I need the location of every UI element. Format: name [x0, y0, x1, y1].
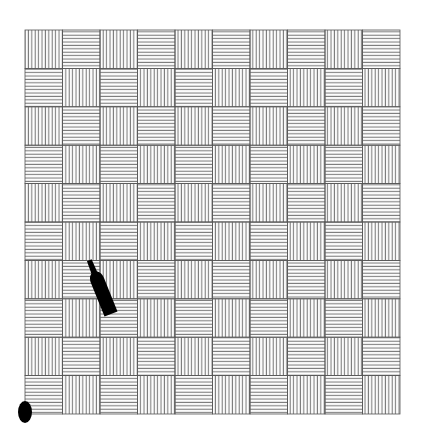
floor-tile — [325, 30, 363, 68]
floor-tile — [63, 68, 101, 106]
floor-tile — [25, 260, 63, 298]
floor-tile — [325, 184, 363, 222]
floor-tile — [138, 260, 176, 298]
floor-tile — [100, 337, 138, 375]
floor-tile — [288, 260, 326, 298]
floor-tile — [363, 376, 401, 414]
floor-tile — [25, 337, 63, 375]
floor-tile — [250, 376, 288, 414]
floor-tile — [363, 299, 401, 337]
floor-tile — [138, 337, 176, 375]
floor-tile — [325, 260, 363, 298]
floor-tile — [175, 145, 213, 183]
floor-tile — [325, 376, 363, 414]
floor-tile — [325, 107, 363, 145]
floor-tile — [138, 376, 176, 414]
floor-tile — [175, 376, 213, 414]
floor-tile — [175, 184, 213, 222]
floor-tile — [25, 30, 63, 68]
floor-tile — [363, 107, 401, 145]
floor-tile — [138, 222, 176, 260]
floor-tile — [138, 30, 176, 68]
floor-tile — [250, 184, 288, 222]
floor-tile — [363, 337, 401, 375]
floor-tile — [25, 299, 63, 337]
floor-tile — [363, 145, 401, 183]
floor-tile — [175, 222, 213, 260]
floor-tile — [175, 299, 213, 337]
floor-tile — [213, 30, 251, 68]
floor-tile — [138, 299, 176, 337]
floor-tile — [363, 222, 401, 260]
floor-tile — [288, 30, 326, 68]
floor-tile — [63, 337, 101, 375]
floor-tile — [100, 30, 138, 68]
floor-tile — [213, 145, 251, 183]
floor-tile — [25, 107, 63, 145]
floor-tile — [325, 222, 363, 260]
floor-tile — [25, 222, 63, 260]
floor-tile — [250, 145, 288, 183]
floor-tile — [138, 145, 176, 183]
floor-tile — [138, 184, 176, 222]
floor-tile — [213, 107, 251, 145]
floor-tile — [213, 184, 251, 222]
floor-tile — [138, 68, 176, 106]
floor-tile — [250, 299, 288, 337]
floor-tile — [100, 184, 138, 222]
floor-tile — [250, 337, 288, 375]
floor-tile — [25, 68, 63, 106]
floor-tile — [175, 107, 213, 145]
checkerboard-floor — [25, 30, 400, 414]
floor-tile — [288, 376, 326, 414]
floor-tile — [288, 299, 326, 337]
floor-tile — [100, 145, 138, 183]
floor-tile — [25, 184, 63, 222]
floor-tile — [100, 68, 138, 106]
floor-tile — [63, 145, 101, 183]
floor-tile — [63, 376, 101, 414]
floor-tile — [363, 68, 401, 106]
floor-tile — [213, 337, 251, 375]
floor-tile — [100, 107, 138, 145]
floor-tile — [100, 376, 138, 414]
floor-tile — [325, 299, 363, 337]
floor-tile — [325, 337, 363, 375]
floor-tile — [63, 107, 101, 145]
scene-canvas — [0, 0, 421, 445]
floor-tile — [175, 337, 213, 375]
floor-tile — [213, 376, 251, 414]
floor-tile — [175, 30, 213, 68]
floor-tile — [213, 68, 251, 106]
floor-tile — [288, 222, 326, 260]
black-oval — [18, 401, 32, 423]
floor-tile — [325, 68, 363, 106]
floor-tile — [325, 145, 363, 183]
floor-tile — [363, 184, 401, 222]
floor-tile — [250, 30, 288, 68]
floor-tile — [63, 299, 101, 337]
floor-tile — [175, 260, 213, 298]
floor-tile — [250, 260, 288, 298]
floor-tile — [363, 260, 401, 298]
floor-tile — [63, 30, 101, 68]
floor-tile — [288, 184, 326, 222]
floor-tile — [213, 260, 251, 298]
floor-tile — [25, 145, 63, 183]
floor-tile — [63, 184, 101, 222]
floor-tile — [138, 107, 176, 145]
floor-tile — [63, 222, 101, 260]
floor-tile — [100, 222, 138, 260]
floor-tile — [288, 337, 326, 375]
floor-tile — [288, 107, 326, 145]
floor-tile — [175, 68, 213, 106]
floor-tile — [288, 145, 326, 183]
floor-tile — [250, 222, 288, 260]
floor-tile — [250, 68, 288, 106]
floor-tile — [250, 107, 288, 145]
floor-tile — [213, 222, 251, 260]
floor-tile — [213, 299, 251, 337]
floor-tile — [288, 68, 326, 106]
floor-tile — [363, 30, 401, 68]
